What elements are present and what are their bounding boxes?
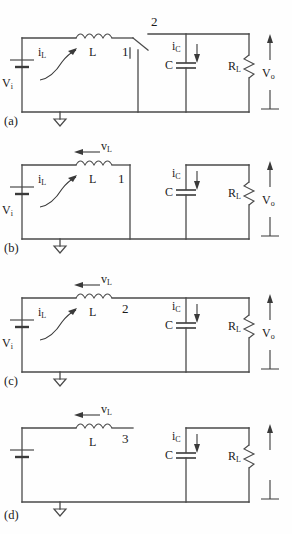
cap-current-label-c: iC — [172, 299, 181, 314]
resistor-label-c: RL — [228, 319, 241, 334]
cap-current-label-a: iC — [172, 39, 181, 54]
output-reference-tee-c — [261, 350, 279, 369]
inductor-coil-d — [76, 424, 112, 428]
panel-caption-d: (d) — [4, 508, 19, 522]
output-label-c: Vo — [262, 326, 275, 341]
resistor-label-d: RL — [228, 449, 241, 464]
switch-position-upper-d: 3 — [122, 431, 129, 446]
output-arrowhead-a — [267, 34, 273, 43]
inductor-label-d: L — [89, 435, 96, 449]
cap-label-c: C — [165, 318, 173, 332]
cap-current-label-d: iC — [172, 429, 181, 444]
cap-label-a: C — [165, 58, 173, 72]
ground-icon-a — [54, 119, 66, 126]
figure-sheet: Vi iL L 2 1 iC C RL Vo (a) — [0, 0, 292, 534]
ground-icon-d — [54, 509, 66, 516]
resistor-zigzag-d — [244, 445, 254, 468]
switch-blade-a — [133, 38, 148, 50]
output-label-b: Vo — [262, 193, 275, 208]
inductor-current-label-b: iL — [38, 172, 46, 187]
panel-caption-a: (a) — [4, 114, 18, 128]
inductor-coil-a — [76, 34, 112, 38]
inductor-coil-b — [76, 161, 112, 165]
output-arrowhead-c — [267, 294, 273, 303]
resistor-label-b: RL — [228, 186, 241, 201]
switch-position-lower-b: 1 — [118, 171, 125, 186]
inductor-voltage-arrowhead-b — [74, 149, 83, 155]
source-label-c: Vi — [2, 336, 14, 351]
inductor-voltage-label-d: vL — [101, 402, 112, 417]
cap-current-label-b: iC — [172, 166, 181, 181]
inductor-label-a: L — [89, 45, 96, 59]
resistor-zigzag-b — [244, 182, 254, 205]
output-reference-tee-b — [261, 217, 279, 236]
switch-position-upper-a: 2 — [151, 14, 158, 29]
resistor-zigzag-c — [244, 315, 254, 338]
panel-caption-b: (b) — [4, 241, 19, 255]
cap-label-d: C — [165, 448, 173, 462]
circuit-diagram-b: Vi iL L vL 1 iC C RL Vo (b) — [0, 135, 292, 257]
inductor-coil-c — [76, 294, 112, 298]
inductor-voltage-label-b: vL — [101, 139, 112, 154]
cap-current-arrowhead-d — [194, 444, 200, 453]
cap-current-arrowhead-b — [194, 181, 200, 190]
output-arrowhead-d — [267, 424, 273, 433]
inductor-current-label-c: iL — [38, 305, 46, 320]
switch-position-upper-c: 2 — [122, 301, 129, 316]
output-reference-tee-a — [261, 90, 279, 109]
inductor-label-c: L — [89, 305, 96, 319]
inductor-voltage-arrowhead-c — [74, 282, 83, 288]
resistor-zigzag-a — [244, 55, 254, 78]
circuit-panel-b: Vi iL L vL 1 iC C RL Vo (b) — [0, 135, 292, 257]
circuit-diagram-c: Vi iL L vL 2 iC C RL Vo (c) — [0, 268, 292, 390]
output-label-a: Vo — [262, 66, 275, 81]
circuit-diagram-a: Vi iL L 2 1 iC C RL Vo (a) — [0, 8, 292, 130]
panel-caption-c: (c) — [4, 374, 18, 388]
output-reference-tee-d — [261, 480, 279, 499]
resistor-label-a: RL — [228, 59, 241, 74]
inductor-label-b: L — [89, 172, 96, 186]
source-label-b: Vi — [2, 203, 14, 218]
cap-current-arrowhead-a — [194, 54, 200, 63]
cap-label-b: C — [165, 185, 173, 199]
cap-current-arrowhead-c — [194, 314, 200, 323]
inductor-voltage-arrowhead-d — [74, 412, 83, 418]
output-arrowhead-b — [267, 161, 273, 170]
circuit-panel-d: L vL 3 iC C RL (d) — [0, 398, 292, 524]
circuit-panel-a: Vi iL L 2 1 iC C RL Vo (a) — [0, 8, 292, 130]
inductor-current-label-a: iL — [38, 45, 46, 60]
source-label-a: Vi — [2, 76, 14, 91]
circuit-panel-c: Vi iL L vL 2 iC C RL Vo (c) — [0, 268, 292, 390]
ground-icon-c — [54, 379, 66, 386]
switch-position-lower-a: 1 — [122, 44, 129, 59]
ground-icon-b — [54, 246, 66, 253]
circuit-diagram-d: L vL 3 iC C RL (d) — [0, 398, 292, 524]
inductor-voltage-label-c: vL — [101, 272, 112, 287]
